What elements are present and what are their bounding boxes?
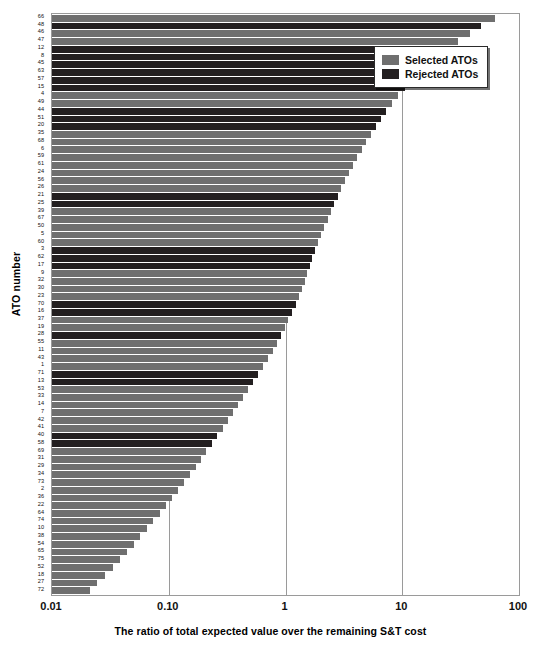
y-axis-tick-labels: 6648464712845635715449445120356865961245… [0,13,48,596]
y-tick-label: 69 [0,448,44,454]
y-tick-label: 58 [0,440,44,446]
bar [52,362,263,370]
bar-row [52,424,519,432]
y-tick-label: 22 [0,502,44,508]
bar-row [52,14,519,22]
y-tick-label: 49 [0,99,44,105]
y-tick-label: 14 [0,401,44,407]
y-tick-label: 21 [0,192,44,198]
y-tick-label: 44 [0,107,44,113]
bar-row [52,339,519,347]
y-tick-label: 36 [0,494,44,500]
bar-row [52,486,519,494]
y-tick-label: 27 [0,579,44,585]
bar-row [52,555,519,563]
bar [52,37,458,45]
bar-row [52,37,519,45]
bar-row [52,463,519,471]
bar [52,548,127,556]
y-tick-label: 59 [0,153,44,159]
bar-row [52,509,519,517]
bar-row [52,439,519,447]
bar [52,176,345,184]
bar [52,524,147,532]
y-tick-label: 65 [0,548,44,554]
y-tick-label: 40 [0,432,44,438]
bar-row [52,494,519,502]
y-tick-label: 46 [0,29,44,35]
bar [52,571,105,579]
bar-row [52,416,519,424]
bar-row [52,401,519,409]
bar [52,153,357,161]
bar-row [52,292,519,300]
y-tick-label: 62 [0,254,44,260]
bar-row [52,192,519,200]
bar-row [52,331,519,339]
bar [52,262,310,270]
bar-row [52,91,519,99]
bar [52,115,381,123]
y-tick-label: 64 [0,510,44,516]
bar-row [52,563,519,571]
y-tick-label: 66 [0,14,44,20]
legend-label-selected: Selected ATOs [405,54,478,66]
y-tick-label: 4 [0,91,44,97]
bar [52,269,307,277]
bar-row [52,285,519,293]
y-tick-label: 7 [0,409,44,415]
y-tick-label: 17 [0,262,44,268]
bar [52,401,238,409]
x-axis-title: The ratio of total expected value over t… [0,625,541,637]
bar [52,470,190,478]
y-tick-label: 33 [0,393,44,399]
bar [52,29,470,37]
y-tick-label: 9 [0,270,44,276]
bar [52,76,411,84]
y-tick-label: 32 [0,277,44,283]
bar-row [52,300,519,308]
y-tick-label: 35 [0,130,44,136]
y-tick-label: 28 [0,331,44,337]
bar [52,354,268,362]
y-tick-label: 54 [0,541,44,547]
bar-row [52,207,519,215]
bar-row [52,517,519,525]
y-tick-label: 31 [0,455,44,461]
bar-row [52,231,519,239]
bar-row [52,354,519,362]
bar [52,231,321,239]
bar [52,107,386,115]
y-tick-label: 24 [0,169,44,175]
y-tick-label: 51 [0,115,44,121]
y-tick-label: 45 [0,60,44,66]
y-tick-label: 72 [0,587,44,593]
bar [52,385,248,393]
bar-row [52,586,519,594]
y-tick-label: 60 [0,239,44,245]
y-tick-label: 42 [0,417,44,423]
y-tick-label: 25 [0,200,44,206]
bar [52,378,253,386]
bar [52,416,228,424]
y-tick-label: 16 [0,308,44,314]
bar [52,463,196,471]
bar [52,192,338,200]
bar-row [52,524,519,532]
y-tick-label: 2 [0,486,44,492]
bar [52,478,184,486]
y-tick-label: 52 [0,564,44,570]
bar-row [52,169,519,177]
y-tick-label: 34 [0,471,44,477]
bar [52,501,166,509]
bar [52,439,212,447]
y-tick-label: 63 [0,68,44,74]
bar-row [52,29,519,37]
y-tick-label: 47 [0,37,44,43]
bar [52,99,392,107]
bar [52,138,366,146]
bar-row [52,455,519,463]
legend: Selected ATOs Rejected ATOs [374,46,488,88]
bar-series [52,14,519,595]
y-tick-label: 11 [0,347,44,353]
